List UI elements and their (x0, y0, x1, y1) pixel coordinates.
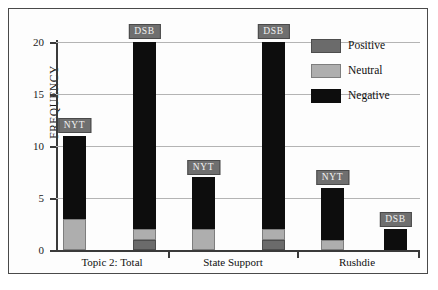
bar-statesupport-dsb[interactable]: DSB (262, 42, 285, 250)
bar-segment-neutral (192, 229, 215, 250)
legend-label-neutral: Neutral (348, 65, 382, 77)
legend-swatch-negative (311, 89, 341, 103)
bar-segment-neutral (63, 219, 86, 250)
bar-segment-negative (321, 188, 344, 240)
bar-tag-dsb: DSB (128, 24, 160, 40)
bar-topic2-dsb[interactable]: DSB (133, 42, 156, 250)
bar-segment-negative (133, 42, 156, 229)
y-tick-label-20: 20 (33, 37, 44, 48)
y-tick-label-10: 10 (33, 141, 44, 152)
bar-segment-negative (262, 42, 285, 229)
y-tick-label-5: 5 (39, 193, 45, 204)
bar-rushdie-nyt[interactable]: NYT (321, 188, 344, 250)
bar-segment-negative (63, 136, 86, 219)
x-axis-end-tick (418, 250, 420, 258)
bar-segment-neutral (321, 240, 344, 250)
y-tick-0 (50, 250, 57, 252)
bar-tag-nyt: NYT (187, 160, 220, 176)
gridline-5 (56, 198, 420, 199)
x-axis-group-separator (297, 250, 299, 258)
bar-topic2-nyt[interactable]: NYT (63, 136, 86, 250)
bar-tag-nyt: NYT (316, 170, 349, 186)
legend-swatch-neutral (311, 64, 341, 78)
y-tick-label-15: 15 (33, 89, 44, 100)
legend-item-neutral[interactable]: Neutral (311, 61, 417, 80)
bar-segment-negative (384, 229, 407, 250)
legend-item-positive[interactable]: Positive (311, 36, 417, 55)
x-axis-group-separator (168, 250, 170, 258)
bar-segment-negative (192, 177, 215, 229)
chart-figure: FREQUENCY 0 5 10 15 20 NYT DSB (0, 0, 438, 290)
x-axis-label-topic2-total: Topic 2: Total (81, 256, 142, 268)
legend-swatch-positive (311, 39, 341, 53)
bar-rushdie-dsb[interactable]: DSB (384, 229, 407, 250)
gridline-10 (56, 146, 420, 147)
chart-legend: Positive Neutral Negative (311, 36, 417, 111)
x-axis-label-state-support: State Support (203, 256, 263, 268)
legend-label-negative: Negative (348, 90, 390, 102)
bar-tag-dsb: DSB (257, 24, 289, 40)
legend-label-positive: Positive (348, 40, 385, 52)
bar-segment-positive (133, 240, 156, 250)
bar-segment-positive (262, 240, 285, 250)
x-axis-line (56, 250, 420, 252)
bar-tag-dsb: DSB (379, 212, 411, 228)
legend-item-negative[interactable]: Negative (311, 86, 417, 105)
bar-segment-neutral (262, 229, 285, 239)
bar-segment-neutral (133, 229, 156, 239)
bar-tag-nyt: NYT (58, 118, 91, 134)
bar-statesupport-nyt[interactable]: NYT (192, 177, 215, 250)
x-axis-label-rushdie: Rushdie (339, 256, 375, 268)
y-tick-label-0: 0 (39, 245, 45, 256)
